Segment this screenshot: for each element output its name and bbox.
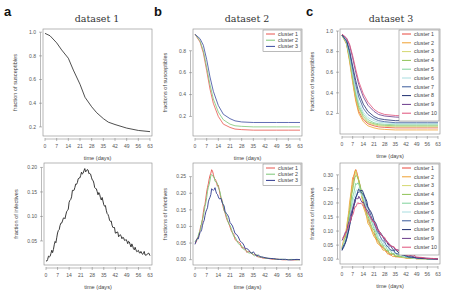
y-tick-label: 0.8 bbox=[179, 48, 186, 54]
legend-label: cluster 3 bbox=[414, 48, 434, 54]
legend-label: cluster 6 bbox=[414, 75, 434, 81]
y-axis-label: fractions of infectives bbox=[162, 188, 168, 240]
x-axis-label: time (days) bbox=[376, 283, 404, 289]
x-tick-label: 28 bbox=[239, 143, 245, 149]
y-tick-label: 0.00 bbox=[176, 256, 186, 262]
y-axis-label: fraction of susceptibles bbox=[12, 54, 18, 111]
panel-title: dataset 2 bbox=[225, 13, 270, 24]
x-tick-label: 28 bbox=[382, 141, 388, 147]
x-tick-label: 49 bbox=[274, 272, 280, 278]
x-axis-label: time (days) bbox=[84, 155, 112, 161]
y-tick-label: 0.10 bbox=[176, 223, 186, 229]
y-tick-label: 0.20 bbox=[27, 164, 37, 170]
x-tick-label: 35 bbox=[393, 141, 399, 147]
x-tick-label: 63 bbox=[297, 143, 303, 149]
x-tick-label: 49 bbox=[414, 271, 420, 277]
x-tick-label: 42 bbox=[113, 272, 119, 278]
y-tick-label: 1.0 bbox=[326, 28, 333, 34]
x-tick-label: 56 bbox=[425, 141, 431, 147]
legend-label: cluster 5 bbox=[414, 66, 434, 72]
x-tick-label: 56 bbox=[136, 272, 142, 278]
y-tick-label: 0.6 bbox=[179, 69, 186, 75]
x-tick-label: 7 bbox=[205, 143, 208, 149]
legend-label: cluster 7 bbox=[414, 84, 434, 90]
x-tick-label: 49 bbox=[414, 141, 420, 147]
y-axis-label: fraction of infectives bbox=[13, 189, 19, 239]
x-tick-label: 28 bbox=[89, 272, 95, 278]
x-tick-label: 7 bbox=[205, 272, 208, 278]
x-tick-label: 35 bbox=[393, 271, 399, 277]
y-tick-label: 0.05 bbox=[176, 240, 186, 246]
plot-a-bottom: 071421283542495663time (days)0.050.100.1… bbox=[13, 163, 153, 290]
x-tick-label: 0 bbox=[341, 271, 344, 277]
x-axis-label: time (days) bbox=[234, 155, 262, 161]
x-tick-label: 42 bbox=[262, 143, 268, 149]
legend-label: cluster 7 bbox=[414, 218, 434, 224]
x-tick-label: 42 bbox=[112, 143, 118, 149]
x-tick-label: 0 bbox=[45, 272, 48, 278]
legend-label: cluster 10 bbox=[414, 110, 437, 116]
y-tick-label: 0.2 bbox=[179, 113, 186, 119]
panel-letter: a bbox=[4, 4, 12, 19]
y-tick-label: 0.8 bbox=[326, 48, 333, 54]
legend-label: cluster 3 bbox=[278, 177, 298, 183]
y-tick-label: 0.25 bbox=[323, 186, 333, 192]
y-tick-label: 0.4 bbox=[29, 100, 36, 106]
x-tick-label: 21 bbox=[227, 272, 233, 278]
y-tick-label: 0.30 bbox=[323, 172, 333, 178]
legend-label: cluster 3 bbox=[278, 43, 298, 49]
x-tick-label: 56 bbox=[286, 272, 292, 278]
y-tick-label: 0.15 bbox=[323, 214, 333, 220]
plot-b-bottom: 071421283542495663time (days)0.000.050.1… bbox=[162, 163, 303, 290]
x-tick-label: 28 bbox=[239, 272, 245, 278]
plot-frame bbox=[43, 29, 152, 136]
x-tick-label: 14 bbox=[361, 271, 367, 277]
plot-c-bottom: 071421283542495663time (days)0.000.050.1… bbox=[309, 163, 441, 289]
x-tick-label: 35 bbox=[101, 272, 107, 278]
x-tick-label: 21 bbox=[78, 272, 84, 278]
y-tick-label: 0.25 bbox=[176, 173, 186, 179]
x-tick-label: 21 bbox=[227, 143, 233, 149]
y-tick-label: 0.10 bbox=[27, 213, 37, 219]
legend: cluster 1cluster 2cluster 3 bbox=[263, 30, 301, 52]
legend-label: cluster 6 bbox=[414, 209, 434, 215]
legend: cluster 1cluster 2cluster 3cluster 4clus… bbox=[399, 164, 439, 255]
x-tick-label: 0 bbox=[341, 141, 344, 147]
x-tick-label: 35 bbox=[251, 143, 257, 149]
x-tick-label: 42 bbox=[262, 272, 268, 278]
y-tick-label: 0.8 bbox=[29, 53, 36, 59]
y-tick-label: 0.2 bbox=[326, 110, 333, 116]
legend-label: cluster 9 bbox=[414, 235, 434, 241]
x-tick-label: 35 bbox=[101, 143, 107, 149]
y-tick-label: 0.05 bbox=[323, 242, 333, 248]
x-tick-label: 56 bbox=[425, 271, 431, 277]
x-tick-label: 63 bbox=[147, 272, 153, 278]
x-tick-label: 56 bbox=[286, 143, 292, 149]
x-tick-label: 7 bbox=[55, 143, 58, 149]
series-line bbox=[195, 188, 300, 260]
panel-letter: c bbox=[306, 4, 313, 19]
x-tick-label: 63 bbox=[147, 143, 153, 149]
series-line bbox=[45, 33, 150, 131]
plot-a-top: dataset 1071421283542495663time (days)0.… bbox=[12, 13, 153, 161]
x-tick-label: 14 bbox=[361, 141, 367, 147]
x-tick-label: 63 bbox=[435, 271, 441, 277]
x-tick-label: 63 bbox=[297, 272, 303, 278]
y-tick-label: 0.4 bbox=[326, 90, 333, 96]
x-axis-label: time (days) bbox=[234, 284, 262, 290]
x-tick-label: 49 bbox=[274, 143, 280, 149]
y-tick-label: 0.00 bbox=[323, 256, 333, 262]
x-tick-label: 21 bbox=[371, 271, 377, 277]
legend-label: cluster 1 bbox=[414, 31, 434, 37]
panel-title: dataset 3 bbox=[369, 13, 414, 24]
legend-label: cluster 1 bbox=[278, 165, 298, 171]
y-tick-label: 0.20 bbox=[323, 200, 333, 206]
y-axis-label: fractions of susceptibles bbox=[162, 52, 168, 112]
legend-label: cluster 8 bbox=[414, 92, 434, 98]
legend-label: cluster 2 bbox=[414, 174, 434, 180]
legend: cluster 1cluster 2cluster 3cluster 4clus… bbox=[399, 30, 439, 121]
x-tick-label: 35 bbox=[251, 272, 257, 278]
legend-label: cluster 2 bbox=[278, 171, 298, 177]
x-tick-label: 63 bbox=[435, 141, 441, 147]
y-axis-label: fractions of susceptibles bbox=[309, 51, 315, 111]
